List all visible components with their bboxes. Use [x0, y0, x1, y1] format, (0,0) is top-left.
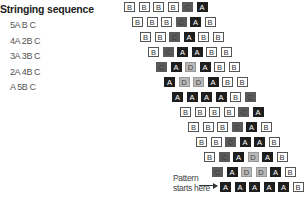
bead-a: A [246, 122, 257, 132]
bead-b: B [196, 137, 207, 147]
bead-b: B [140, 32, 151, 42]
bead-b: B [148, 47, 159, 57]
bead-a: A [220, 182, 231, 192]
bead-d: D [179, 77, 190, 87]
bead-a: A [208, 77, 219, 87]
bead-a: A [278, 182, 289, 192]
bead-c: C [225, 137, 236, 147]
bead-c: C [169, 32, 180, 42]
bead-a: A [197, 2, 208, 12]
bead-row: AAAAAB [220, 182, 304, 192]
bead-b: B [204, 152, 215, 162]
bead-row: BBBCAB [188, 122, 272, 132]
bead-a: A [171, 62, 182, 72]
bead-b: B [155, 32, 166, 42]
bead-b: B [168, 2, 179, 12]
bead-d: D [256, 167, 267, 177]
bead-a: A [240, 137, 251, 147]
arrow-right-icon [199, 185, 217, 186]
bead-a: A [227, 167, 238, 177]
bead-b: B [161, 17, 172, 27]
bead-row: BBBCAB [132, 17, 216, 27]
bead-row: AAAABC [172, 92, 256, 102]
bead-a: A [270, 167, 281, 177]
bead-b: B [261, 122, 272, 132]
bead-a: A [233, 152, 244, 162]
bead-b: B [285, 167, 296, 177]
bead-c: C [176, 17, 187, 27]
bead-b: B [269, 137, 280, 147]
bead-row: BBBBCA [124, 2, 208, 12]
bead-b: B [198, 32, 209, 42]
bead-row: BBCABB [140, 32, 224, 42]
bead-b: B [224, 107, 235, 117]
bead-b: B [205, 17, 216, 27]
bead-row: ADDABB [164, 77, 248, 87]
bead-a: A [172, 92, 183, 102]
bead-a: A [249, 182, 260, 192]
bead-a: A [264, 182, 275, 192]
bead-a: A [190, 17, 201, 27]
bead-c: C [212, 167, 223, 177]
bead-b: B [139, 2, 150, 12]
bead-c: C [245, 92, 256, 102]
bead-b: B [132, 17, 143, 27]
bead-a: A [254, 137, 265, 147]
bead-b: B [221, 47, 232, 57]
bead-b: B [153, 2, 164, 12]
bead-row: BCADAB [204, 152, 288, 162]
bead-c: C [163, 47, 174, 57]
bead-c: C [182, 2, 193, 12]
bead-b: B [124, 2, 135, 12]
bead-row: BCAABB [148, 47, 232, 57]
bead-row: CADDAB [212, 167, 296, 177]
bead-a: A [177, 47, 188, 57]
bead-d: D [193, 77, 204, 87]
bead-row: BBBBCA [180, 107, 264, 117]
bead-d: D [248, 152, 259, 162]
bead-c: C [219, 152, 230, 162]
bead-b: B [229, 62, 240, 72]
pattern-start-label: Pattern starts here [173, 173, 210, 193]
bead-a: A [235, 182, 246, 192]
bead-b: B [209, 107, 220, 117]
bead-b: B [195, 107, 206, 117]
start-label-line1: Pattern [173, 173, 210, 183]
bead-b: B [206, 47, 217, 57]
bead-b: B [214, 62, 225, 72]
bead-b: B [211, 137, 222, 147]
bead-a: A [192, 47, 203, 57]
bead-c: C [232, 122, 243, 132]
bead-a: A [164, 77, 175, 87]
bead-a: A [187, 92, 198, 102]
bead-b: B [147, 17, 158, 27]
bead-b: B [237, 77, 248, 87]
bead-row: CADABB [156, 62, 240, 72]
bead-b: B [222, 77, 233, 87]
bead-c: C [156, 62, 167, 72]
bead-pattern-grid: BBBBCABBBCABBBCABBBCAABBCADABBADDABBAAAA… [0, 0, 305, 206]
bead-b: B [230, 92, 241, 102]
bead-b: B [180, 107, 191, 117]
bead-a: A [253, 107, 264, 117]
bead-a: A [201, 92, 212, 102]
bead-b: B [203, 122, 214, 132]
bead-a: A [200, 62, 211, 72]
bead-b: B [277, 152, 288, 162]
bead-row: BBCAAB [196, 137, 280, 147]
bead-d: D [185, 62, 196, 72]
bead-a: A [216, 92, 227, 102]
bead-a: A [262, 152, 273, 162]
bead-b: B [293, 182, 304, 192]
bead-b: B [188, 122, 199, 132]
bead-b: B [217, 122, 228, 132]
bead-d: D [241, 167, 252, 177]
bead-c: C [238, 107, 249, 117]
bead-b: B [213, 32, 224, 42]
bead-a: A [184, 32, 195, 42]
